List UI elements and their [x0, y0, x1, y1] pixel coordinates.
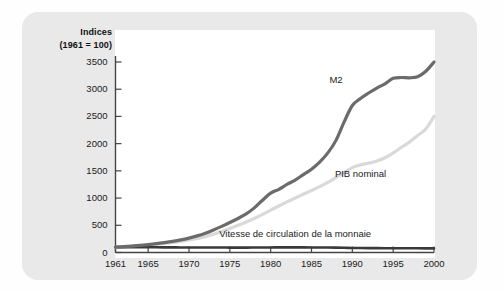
y-tick-label: 0 [62, 247, 108, 258]
y-tick-label: 500 [62, 219, 108, 230]
series-label-pib-nominal: PIB nominal [335, 168, 386, 179]
x-tick-label: 1990 [332, 258, 372, 269]
y-tick-label: 2000 [62, 138, 108, 149]
y-tick-label: 2500 [62, 110, 108, 121]
series-label-vitesse-de-circulation-de-la-monnaie: Vitesse de circulation de la monnaie [217, 228, 373, 239]
axes-layer [116, 56, 435, 253]
x-tick-label: 1995 [373, 258, 413, 269]
x-tick-label: 2000 [414, 258, 454, 269]
series-label-m2: M2 [329, 74, 342, 85]
x-tick-label: 1980 [251, 258, 291, 269]
y-tick-label: 1500 [62, 165, 108, 176]
x-tick-label: 1965 [128, 258, 168, 269]
chart-figure: Indices (1961 = 100) 0500100015002000250… [0, 0, 503, 293]
x-tick-label: 1975 [210, 258, 250, 269]
y-tick-label: 1000 [62, 192, 108, 203]
series-layer [116, 62, 435, 248]
series-line-vitesse-de-circulation-de-la-monnaie [116, 247, 435, 248]
x-tick-label: 1985 [292, 258, 332, 269]
x-tick-label: 1970 [169, 258, 209, 269]
y-tick-label: 3500 [62, 56, 108, 67]
y-tick-label: 3000 [62, 83, 108, 94]
series-line-m2 [116, 62, 435, 247]
